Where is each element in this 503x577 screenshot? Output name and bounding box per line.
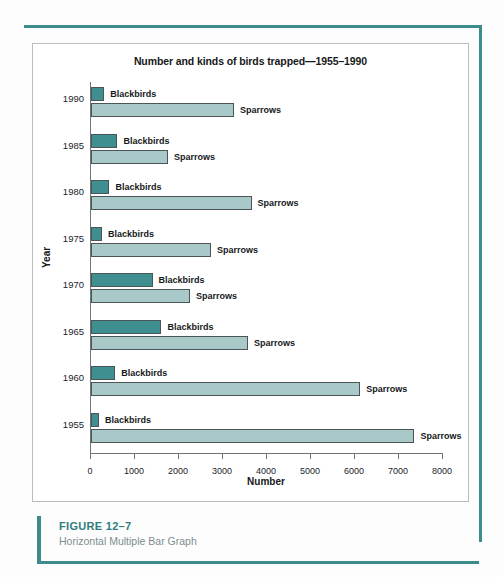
x-tick [178,454,179,459]
bar-sparrows[interactable] [91,289,190,303]
chart-title: Number and kinds of birds trapped—1955–1… [33,55,468,67]
bar-sparrows[interactable] [91,150,168,164]
x-tick-label: 3000 [212,466,232,476]
chart-frame: Number and kinds of birds trapped—1955–1… [32,43,469,502]
bar-label-sparrows: Sparrows [420,429,461,443]
figure-caption-title: FIGURE 12–7 [59,520,479,532]
bar-blackbirds[interactable] [91,413,99,427]
bar-sparrows[interactable] [91,429,414,443]
y-tick-label: 1975 [63,233,84,244]
bar-blackbirds[interactable] [91,180,109,194]
x-tick [134,454,135,459]
bar-group: 1985BlackbirdsSparrows [91,129,443,176]
x-tick-label: 5000 [300,466,320,476]
x-tick [354,454,355,459]
bar-label-blackbirds: Blackbirds [121,366,167,380]
bar-label-blackbirds: Blackbirds [159,273,205,287]
bar-sparrows[interactable] [91,336,248,350]
bar-label-sparrows: Sparrows [254,336,295,350]
bar-sparrows[interactable] [91,196,252,210]
bar-blackbirds[interactable] [91,366,115,380]
bar-group: 1960BlackbirdsSparrows [91,361,443,408]
bar-sparrows[interactable] [91,382,360,396]
bar-blackbirds[interactable] [91,273,153,287]
bar-label-blackbirds: Blackbirds [123,134,169,148]
bar-sparrows[interactable] [91,243,211,257]
bar-label-blackbirds: Blackbirds [110,87,156,101]
bar-label-sparrows: Sparrows [217,243,258,257]
bar-group: 1955BlackbirdsSparrows [91,408,443,455]
x-tick-label: 7000 [388,466,408,476]
x-tick-label: 4000 [256,466,276,476]
y-tick-label: 1955 [63,419,84,430]
bar-label-blackbirds: Blackbirds [115,180,161,194]
decorative-rule-top [24,25,479,28]
bar-group: 1990BlackbirdsSparrows [91,82,443,129]
y-tick-label: 1970 [63,279,84,290]
x-tick [90,454,91,459]
bar-label-sparrows: Sparrows [366,382,407,396]
figure-page: Number and kinds of birds trapped—1955–1… [0,0,503,577]
y-tick-label: 1985 [63,140,84,151]
x-tick [310,454,311,459]
bar-label-sparrows: Sparrows [174,150,215,164]
bar-label-blackbirds: Blackbirds [108,227,154,241]
y-tick-label: 1965 [63,326,84,337]
bar-blackbirds[interactable] [91,227,102,241]
x-tick [398,454,399,459]
x-axis-title: Number [90,476,442,487]
bar-label-sparrows: Sparrows [196,289,237,303]
y-tick-label: 1960 [63,372,84,383]
bar-label-blackbirds: Blackbirds [105,413,151,427]
x-tick-label: 8000 [432,466,452,476]
x-tick-label: 2000 [168,466,188,476]
x-tick [442,454,443,459]
x-tick-label: 6000 [344,466,364,476]
bar-group: 1970BlackbirdsSparrows [91,268,443,315]
x-tick-label: 1000 [124,466,144,476]
bar-sparrows[interactable] [91,103,234,117]
y-tick-label: 1980 [63,186,84,197]
x-tick [266,454,267,459]
bar-group: 1975BlackbirdsSparrows [91,222,443,269]
bar-label-sparrows: Sparrows [240,103,281,117]
bar-blackbirds[interactable] [91,134,117,148]
plot-area: 010002000300040005000600070008000 1990Bl… [90,82,442,454]
y-axis-title: Year [41,247,52,268]
x-tick [222,454,223,459]
figure-caption: FIGURE 12–7 Horizontal Multiple Bar Grap… [37,516,479,564]
x-tick-label: 0 [87,466,92,476]
figure-caption-subtitle: Horizontal Multiple Bar Graph [59,535,479,547]
decorative-rule-right [479,25,482,542]
bar-group: 1980BlackbirdsSparrows [91,175,443,222]
bar-group: 1965BlackbirdsSparrows [91,315,443,362]
bar-label-sparrows: Sparrows [258,196,299,210]
bar-blackbirds[interactable] [91,87,104,101]
bar-blackbirds[interactable] [91,320,161,334]
y-tick-label: 1990 [63,93,84,104]
bar-label-blackbirds: Blackbirds [167,320,213,334]
